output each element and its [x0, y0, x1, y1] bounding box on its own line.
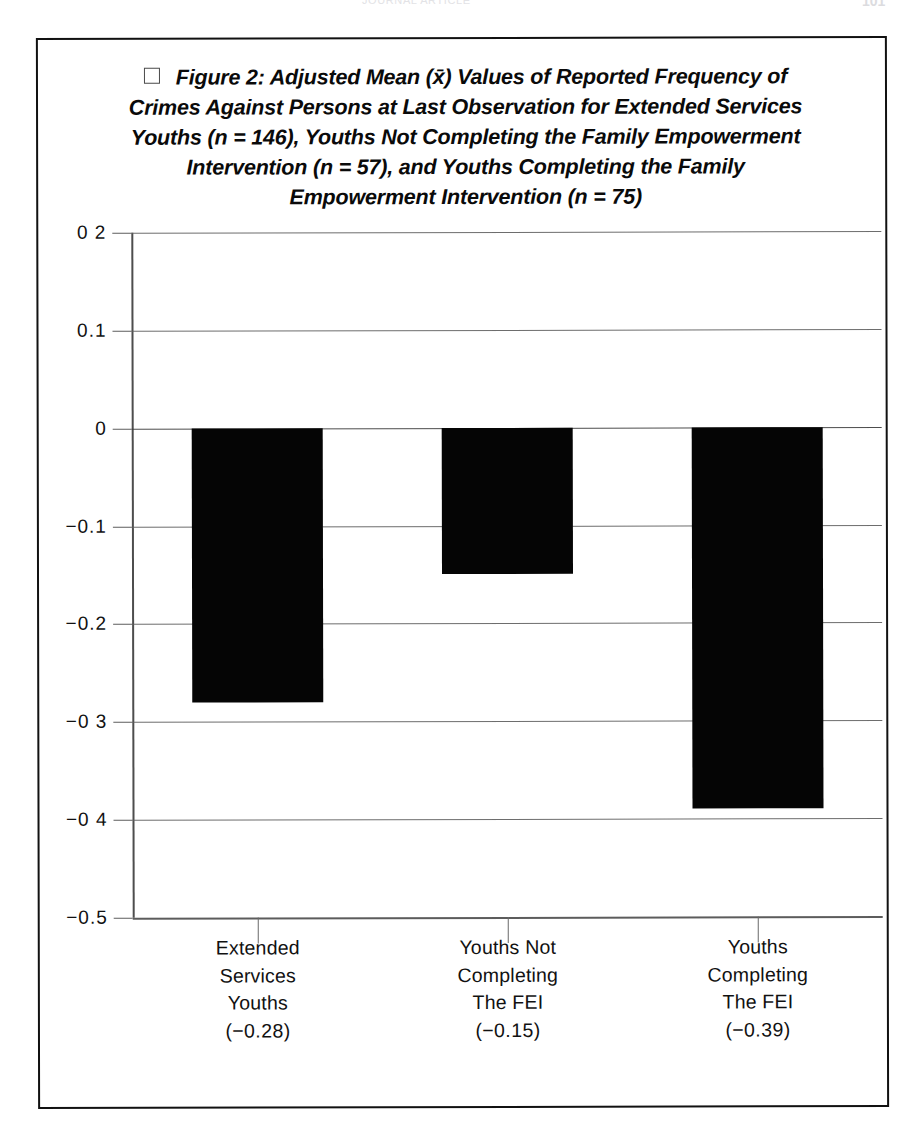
figure-title-line-5: Empowerment Intervention (n = 75) — [78, 181, 853, 213]
y-axis-line — [131, 233, 134, 918]
figure-frame: Figure 2: Adjusted Mean (x̄) Values of R… — [36, 36, 889, 1109]
figure-title-line-2: Crimes Against Persons at Last Observati… — [78, 91, 853, 123]
category-label-line: Extended — [143, 934, 373, 962]
x-axis-category-label-2: Youths NotCompletingThe FEI(−0.15) — [393, 934, 623, 1044]
x-axis-category-label-layer: ExtendedServicesYouths(−0.28)Youths NotC… — [133, 933, 883, 1085]
y-axis-tick-label: −0 4 — [9, 809, 129, 831]
bar-chart-plot-area: 0 20.10−0.1−0.2−0 3−0 4−0.5 — [131, 231, 882, 918]
category-label-line: The FEI — [643, 988, 873, 1016]
y-axis-tick-label: 0 — [9, 417, 129, 439]
y-axis-tick-label: −0.2 — [9, 613, 129, 635]
figure-title-line-3: Youths (n = 146), Youths Not Completing … — [78, 121, 853, 153]
empty-square-icon — [144, 68, 160, 84]
category-label-line: Services — [143, 962, 373, 990]
category-value-label: (−0.15) — [393, 1016, 623, 1044]
figure-title: Figure 2: Adjusted Mean (x̄) Values of R… — [78, 61, 853, 213]
category-label-line: Youths Not — [393, 934, 623, 962]
category-value-label: (−0.28) — [143, 1017, 373, 1045]
category-label-line: The FEI — [393, 989, 623, 1017]
page-number: 101 — [862, 0, 885, 9]
category-value-label: (−0.39) — [643, 1016, 873, 1044]
gridline-0_2 — [131, 231, 881, 234]
gridline-layer — [131, 231, 881, 233]
running-head-text: JOURNAL ARTICLE — [362, 0, 471, 6]
category-label-line: Youths — [643, 933, 873, 961]
gridline-neg0_4 — [133, 818, 883, 821]
y-axis-tick-label: 0.1 — [8, 320, 128, 342]
bar-2 — [441, 427, 572, 574]
figure-title-line-4: Intervention (n = 57), and Youths Comple… — [78, 151, 853, 183]
category-label-line: Completing — [643, 961, 873, 989]
y-axis-tick-label: 0 2 — [8, 222, 128, 244]
x-axis-category-label-3: YouthsCompletingThe FEI(−0.39) — [643, 933, 873, 1043]
page-running-head: JOURNAL ARTICLE 101 — [0, 0, 922, 12]
y-axis-tick-label: −0.5 — [10, 907, 130, 929]
figure-title-text-1: Figure 2: Adjusted Mean (x̄) Values of R… — [176, 64, 787, 89]
y-axis-tick-label: −0.1 — [9, 515, 129, 537]
figure-title-line-1: Figure 2: Adjusted Mean (x̄) Values of R… — [78, 61, 853, 93]
category-label-line: Completing — [393, 961, 623, 989]
gridline-0_1 — [131, 329, 881, 332]
y-axis-tick-label: −0 3 — [9, 711, 129, 733]
category-label-line: Youths — [143, 989, 373, 1017]
x-axis-category-label-1: ExtendedServicesYouths(−0.28) — [143, 934, 373, 1044]
bar-3 — [691, 427, 823, 809]
bar-1 — [191, 428, 323, 702]
